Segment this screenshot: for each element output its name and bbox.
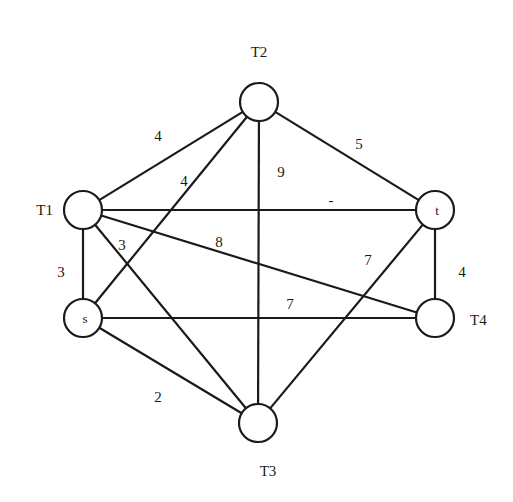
edge-weight-s-T3: 2 [154,389,162,405]
node-T2 [240,83,278,121]
edge-t-T3 [270,225,423,409]
edge-T2-t [275,112,419,200]
edge-T1-T2 [99,112,243,200]
edge-s-T3 [99,328,241,413]
edges-layer [83,112,435,413]
edge-weight-T2-T3: 9 [277,164,285,180]
edge-weight-t-T4: 4 [458,264,466,280]
edge-weight-T1-s: 3 [57,264,65,280]
node-label-T3: T3 [260,463,277,479]
node-label-T4: T4 [470,312,487,328]
edge-weight-s-T2: 4 [180,173,188,189]
edge-weight-s-T4: 7 [286,296,294,312]
edge-weight-T1-T2: 4 [154,128,162,144]
edge-weight-T2-t: 5 [355,136,363,152]
weighted-graph-diagram: 4495-8334772 T2T1tsT4T3 [0,0,513,502]
edge-weight-t-T3: 7 [364,252,372,268]
edge-weight-T1-T3: 3 [118,237,126,253]
node-T3 [239,404,277,442]
edge-T2-T3 [258,121,259,404]
edge-weight-T1-T4: 8 [215,234,223,250]
node-label-T2: T2 [251,44,268,60]
node-inner-label-t: t [435,203,439,218]
node-label-T1: T1 [36,202,53,218]
edge-weights-layer: 4495-8334772 [57,128,466,405]
node-inner-label-s: s [82,311,87,326]
node-T4 [416,299,454,337]
node-T1 [64,191,102,229]
edge-weight-T1-t: - [329,192,334,208]
